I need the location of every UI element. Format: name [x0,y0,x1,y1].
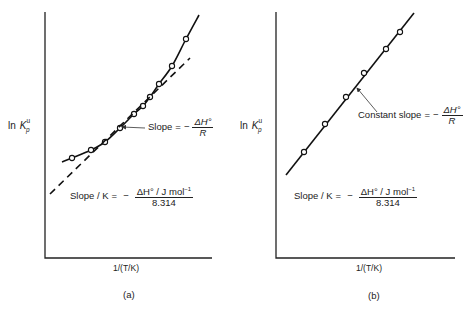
panel-b-y-axis-label: lnKup [240,117,262,133]
lhs: Slope / K [70,190,109,201]
numerator: ΔH° / J mol [137,186,185,197]
data-point [69,155,74,160]
superscript: u [26,117,30,124]
panel-b-x-axis-label: 1/(T/K) [356,263,382,273]
fraction: ΔH°R [192,117,213,138]
panel-a-y-axis-label: lnKup [8,117,30,133]
panel-b-axes [276,12,455,258]
data-point [169,63,174,68]
figure-canvas [0,0,475,309]
panel-b-formula: Slope / K=−ΔH° / J mol−18.314 [294,184,417,208]
panel-b-plot [286,13,414,175]
fit-curve [62,15,199,162]
numerator-exponent: −1 [184,186,191,192]
axis-lines [276,12,455,258]
fraction: ΔH° / J mol−18.314 [359,184,417,208]
numerator-exponent: −1 [408,186,415,192]
constant-slope-text: Constant slope [358,109,421,120]
minus-sign: − [184,121,190,132]
annotation-arrow [122,127,145,128]
data-point [156,81,161,86]
data-point [301,149,306,154]
panel-a-formula: Slope / K=−ΔH° / J mol−18.314 [70,184,193,208]
equals-sign: = [112,190,118,201]
denominator: 8.314 [359,198,417,208]
subscript: p [26,126,30,133]
data-point [397,29,402,34]
data-point [361,70,366,75]
minus-sign: − [433,109,439,120]
minus-sign: − [347,190,353,201]
panel-a-plot [50,15,199,194]
equals-sign: = [424,109,430,120]
denominator: R [192,128,213,138]
panel-a-x-axis-label: 1/(T/K) [113,263,139,273]
fraction: ΔH°R [442,105,463,126]
data-point [343,94,348,99]
panel-a-slope-annotation: Slope=−ΔH°R [148,117,213,138]
minus-sign: − [123,190,129,201]
subscript: p [258,126,262,133]
lhs: Slope / K [294,190,333,201]
slope-text: Slope [148,121,172,132]
equals-sign: = [175,121,181,132]
ln-text: ln [8,120,16,131]
data-point [183,36,188,41]
data-point [322,121,327,126]
data-point [383,46,388,51]
panel-b-tag: (b) [368,290,380,301]
denominator: R [442,116,463,126]
equals-sign: = [336,190,342,201]
panel-a-tag: (a) [123,289,135,300]
denominator: 8.314 [135,198,193,208]
panel-b-slope-annotation: Constant slope=−ΔH°R [358,105,463,126]
fraction: ΔH° / J mol−18.314 [135,184,193,208]
superscript: u [258,117,262,124]
ln-text: ln [240,120,248,131]
numerator: ΔH° / J mol [361,186,409,197]
